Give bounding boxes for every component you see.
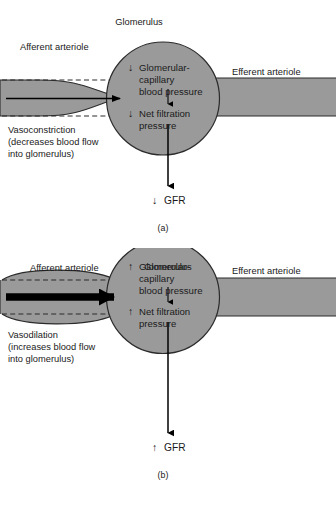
vasoconstriction-detail-line-2-a: into glomerulus) [8,149,74,159]
panel-id-b: (b) [158,470,169,480]
vasoconstriction-heading-a: Vasoconstriction [8,125,76,135]
gfr-label-b: GFR [164,442,186,453]
net-filtration-pressure-line-1-b: Net filtration [139,306,190,317]
vasoconstriction-detail-line-1-a: (decreases blood flow [8,137,99,147]
net-filtration-pressure-line-2-b: pressure [139,318,176,329]
up-arrow-icon-gfr-b: ↑ [152,441,157,453]
glomerular-capillary-bp-line-2-b: capillary [139,273,174,284]
glomerular-capillary-bp-line-2-a: capillary [139,74,174,85]
gfr-label-a: GFR [164,195,186,206]
efferent-arteriole-label-a: Efferent arteriole [232,67,301,77]
glomerulus-label-b: Glomerulus [0,262,336,272]
vasodilation-detail-line-1-b: (increases blood flow [8,342,96,352]
glomerulus-label-a: Glomerulus [115,17,163,27]
glomerulus-capillary-tuft-a [107,42,220,155]
up-arrow-icon-nfp-b: ↑ [128,305,133,317]
panel-a-vasoconstriction: Afferent arteriole Glomerulus Efferent a… [0,0,336,248]
glomerular-capillary-bp-line-3-a: blood pressure [139,86,202,97]
panel-b-vasodilation: Afferent arteriole Efferent arteriole ↑ … [0,248,336,505]
net-filtration-pressure-line-1-a: Net filtration [139,108,190,119]
afferent-arteriole-label-a: Afferent arteriole [20,42,89,52]
down-arrow-icon-nfp-a: ↓ [128,107,133,119]
net-filtration-pressure-line-2-a: pressure [139,120,176,131]
glomerular-capillary-bp-line-3-b: blood pressure [139,285,202,296]
glomerular-capillary-bp-line-1-a: Glomerular- [139,62,190,73]
panel-id-a: (a) [158,223,169,233]
down-arrow-icon-bp-a: ↓ [128,61,133,73]
down-arrow-icon-gfr-a: ↓ [152,194,157,206]
glomerular-filtration-figure: Afferent arteriole Glomerulus Efferent a… [0,0,336,505]
vasodilation-detail-line-2-b: into glomerulus) [8,354,74,364]
vasodilation-heading-b: Vasodilation [8,330,58,340]
